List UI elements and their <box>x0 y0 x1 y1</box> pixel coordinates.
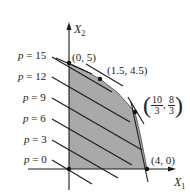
vertex-1_5-4_5 <box>98 77 102 81</box>
iso-label-p6: p = 6 <box>23 113 46 124</box>
iso-label-p0: p = 0 <box>24 154 47 165</box>
iso-label-p3: p = 3 <box>24 134 47 145</box>
vertex-label-10_3-8_3: (103, 83) <box>143 93 183 117</box>
vertex-origin <box>67 167 71 171</box>
iso-label-p15: p = 15 <box>18 50 46 61</box>
x1-axis-arrow-icon <box>168 167 176 172</box>
vertex-0-5 <box>67 61 71 65</box>
vertex-label-1_5-4_5: (1.5, 4.5) <box>107 65 147 76</box>
iso-label-p12: p = 12 <box>18 71 46 82</box>
feasible-region <box>69 63 147 169</box>
x2-axis-label: X2 <box>74 23 85 38</box>
vertex-10_3-8_3 <box>133 110 137 114</box>
vertex-label-4-0: (4, 0) <box>151 155 175 166</box>
vertex-label-0-5: (0, 5) <box>72 52 96 63</box>
x1-axis-label: X1 <box>174 176 185 191</box>
iso-label-p9: p = 9 <box>23 92 46 103</box>
x2-axis-arrow-icon <box>67 22 72 30</box>
vertex-4-0 <box>145 167 149 171</box>
